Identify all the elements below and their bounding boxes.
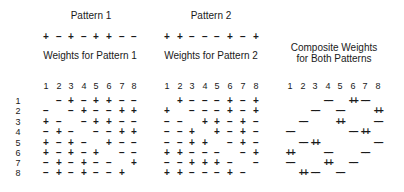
composite-weight-cell: ++ — [324, 158, 333, 168]
row-label: 7 — [15, 158, 20, 168]
weight-cell-p1: − — [40, 168, 52, 178]
column-label: 2 — [177, 81, 182, 91]
column-label: 3 — [68, 81, 73, 91]
weight-cell-p1: + — [53, 127, 65, 137]
title-pattern-2: Pattern 2 — [191, 10, 232, 21]
weight-cell-p1 — [128, 168, 140, 178]
row-label: 6 — [15, 148, 20, 158]
composite-weight-cell: −− — [349, 158, 358, 168]
title-pattern-1: Pattern 1 — [71, 10, 112, 21]
row-label: 5 — [15, 138, 20, 148]
weight-cell-p1: − — [90, 106, 102, 116]
title-composite-line2: for Both Patterns — [291, 53, 378, 64]
weight-cell-p1: + — [116, 127, 128, 137]
weight-cell-p2: − — [237, 168, 249, 178]
weight-cell-p1: − — [53, 96, 65, 106]
row-label: 2 — [15, 106, 20, 116]
weight-cell-p2: − — [199, 168, 211, 178]
pattern-1-element: + — [40, 32, 52, 42]
weight-cell-p2 — [199, 127, 211, 137]
composite-weight-cell: −− — [324, 96, 333, 106]
pattern-2-element: + — [250, 32, 262, 42]
weight-cell-p1: + — [128, 158, 140, 168]
title-weights-2: Weights for Pattern 2 — [164, 50, 258, 61]
row-label: 1 — [15, 96, 20, 106]
weight-cell-p2: − — [237, 148, 249, 158]
column-label: 7 — [119, 81, 124, 91]
composite-weight-cell: −− — [361, 148, 370, 158]
weight-cell-p1: + — [128, 127, 140, 137]
weight-cell-p2: − — [199, 106, 211, 116]
composite-weight-cell: −− — [374, 138, 383, 148]
weight-cell-p1: − — [103, 168, 115, 178]
weight-cell-p2: + — [237, 127, 249, 137]
column-label: 1 — [43, 81, 48, 91]
weight-cell-p1: + — [116, 168, 128, 178]
weight-cell-p2: − — [186, 168, 198, 178]
weight-cell-p1: + — [78, 168, 90, 178]
weight-cell-p1: − — [103, 127, 115, 137]
weight-cell-p1: − — [103, 106, 115, 116]
composite-weight-cell: −− — [286, 158, 295, 168]
pattern-1-element: + — [90, 32, 102, 42]
weight-cell-p1 — [53, 106, 65, 116]
column-label: 5 — [93, 81, 98, 91]
column-label: 6 — [350, 81, 355, 91]
weight-cell-p2: + — [174, 96, 186, 106]
weight-cell-p1: + — [78, 106, 90, 116]
pattern-1-element: − — [116, 32, 128, 42]
weight-cell-p1: + — [53, 168, 65, 178]
weight-cell-p2: − — [250, 127, 262, 137]
weight-cell-p2: + — [224, 168, 236, 178]
weight-cell-p1: + — [128, 106, 140, 116]
weight-cell-p2: + — [161, 106, 173, 116]
weight-cell-p2: + — [250, 106, 262, 116]
composite-weight-cell: ++ — [361, 127, 370, 137]
weight-cell-p1: − — [116, 148, 128, 158]
weight-cell-p2 — [250, 168, 262, 178]
column-label: 1 — [287, 81, 292, 91]
weight-cell-p1: − — [90, 127, 102, 137]
pattern-1-element: − — [78, 32, 90, 42]
weight-cell-p2: − — [186, 106, 198, 116]
composite-weight-cell: ++ — [299, 168, 308, 178]
pattern-1-element: − — [53, 32, 65, 42]
composite-weight-cell: ++ — [336, 117, 345, 127]
weight-cell-p2: + — [199, 117, 211, 127]
pattern-1-element: + — [103, 32, 115, 42]
row-label: 4 — [15, 127, 20, 137]
column-label: 8 — [253, 81, 258, 91]
pattern-2-element: + — [174, 32, 186, 42]
composite-weight-cell: −− — [299, 138, 308, 148]
column-label: 1 — [164, 81, 169, 91]
column-label: 4 — [81, 81, 86, 91]
column-label: 4 — [325, 81, 330, 91]
row-label: 8 — [15, 168, 20, 178]
weight-cell-p1: − — [78, 117, 90, 127]
weight-cell-p2: − — [237, 106, 249, 116]
composite-weight-cell: −− — [286, 127, 295, 137]
composite-weight-cell: −− — [374, 117, 383, 127]
composite-weight-cell: ++ — [374, 106, 383, 116]
weight-cell-p2: − — [174, 127, 186, 137]
composite-weight-cell: −− — [311, 106, 320, 116]
column-label: 8 — [131, 81, 136, 91]
pattern-2-element: − — [211, 32, 223, 42]
column-label: 5 — [337, 81, 342, 91]
pattern-1-element: − — [128, 32, 140, 42]
weight-cell-p2: + — [186, 127, 198, 137]
composite-weight-cell: −− — [336, 106, 345, 116]
column-label: 2 — [300, 81, 305, 91]
title-weights-1: Weights for Pattern 1 — [43, 50, 137, 61]
row-label: 3 — [15, 117, 20, 127]
pattern-2-element: − — [237, 32, 249, 42]
pattern-2-element: − — [199, 32, 211, 42]
column-label: 5 — [214, 81, 219, 91]
column-label: 4 — [202, 81, 207, 91]
weight-cell-p2: + — [211, 127, 223, 137]
weight-cell-p1: − — [65, 127, 77, 137]
weight-cell-p1: − — [65, 106, 77, 116]
weight-cell-p2: − — [211, 106, 223, 116]
weight-cell-p1: − — [65, 168, 77, 178]
weight-cell-p1: − — [90, 168, 102, 178]
